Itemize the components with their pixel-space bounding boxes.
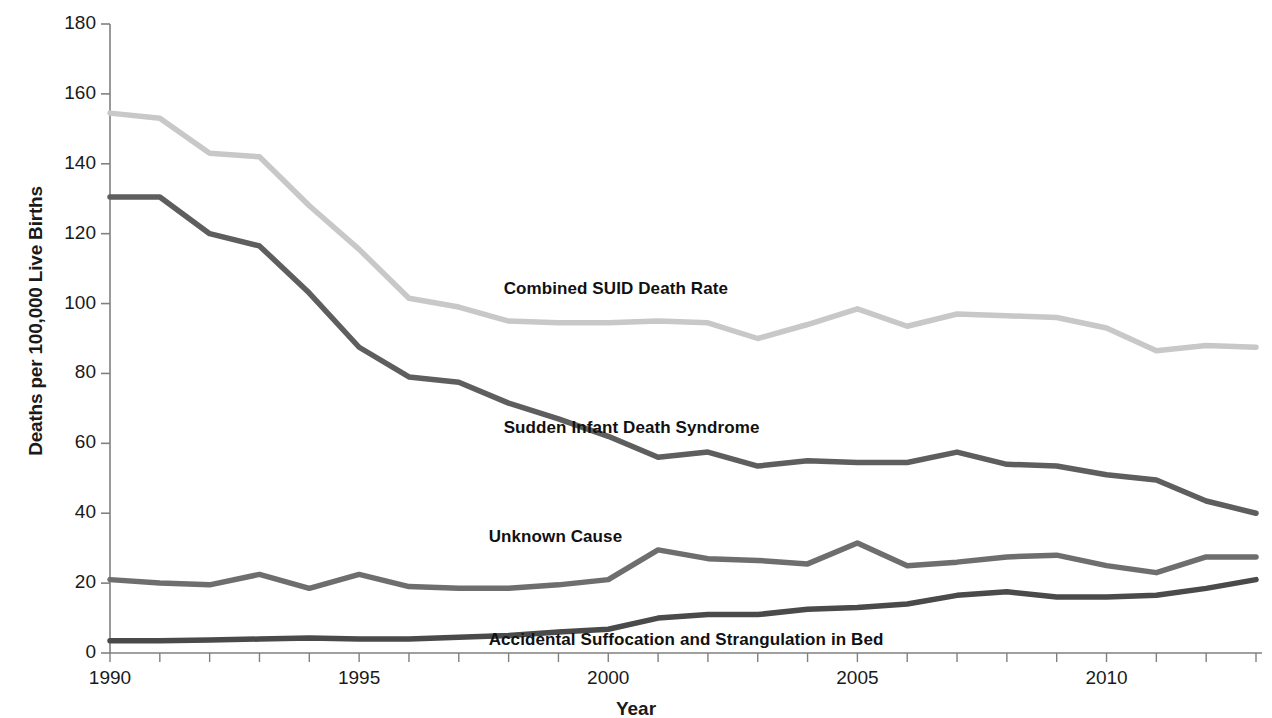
y-tick-label: 140 bbox=[26, 152, 96, 174]
x-tick-label: 1995 bbox=[314, 667, 404, 689]
series-label-0: Combined SUID Death Rate bbox=[504, 279, 728, 299]
y-tick-label: 0 bbox=[26, 641, 96, 663]
axis-lines bbox=[110, 24, 1262, 653]
x-tick-label: 2005 bbox=[812, 667, 902, 689]
series-line-0 bbox=[110, 113, 1256, 351]
y-tick-label: 160 bbox=[26, 82, 96, 104]
y-tick-label: 120 bbox=[26, 222, 96, 244]
series-label-1: Sudden Infant Death Syndrome bbox=[504, 418, 760, 438]
line-chart: Deaths per 100,000 Live Births Year 0204… bbox=[0, 0, 1272, 718]
y-axis-title: Deaths per 100,000 Live Births bbox=[25, 111, 47, 531]
series-line-1 bbox=[110, 197, 1256, 513]
series-label-2: Unknown Cause bbox=[489, 527, 623, 547]
x-tick-label: 2010 bbox=[1062, 667, 1152, 689]
y-tick-label: 40 bbox=[26, 501, 96, 523]
y-tick-label: 100 bbox=[26, 292, 96, 314]
x-tick-label: 2000 bbox=[563, 667, 653, 689]
series-line-2 bbox=[110, 543, 1256, 588]
series-label-3: Accidental Suffocation and Strangulation… bbox=[489, 630, 884, 650]
y-tick-label: 180 bbox=[26, 12, 96, 34]
y-tick-label: 80 bbox=[26, 361, 96, 383]
series-lines bbox=[110, 113, 1256, 641]
tick-marks bbox=[101, 24, 1256, 662]
y-tick-label: 20 bbox=[26, 571, 96, 593]
x-axis-title: Year bbox=[0, 698, 1272, 718]
x-tick-label: 1990 bbox=[65, 667, 155, 689]
chart-plot-area bbox=[0, 0, 1272, 718]
y-tick-label: 60 bbox=[26, 431, 96, 453]
